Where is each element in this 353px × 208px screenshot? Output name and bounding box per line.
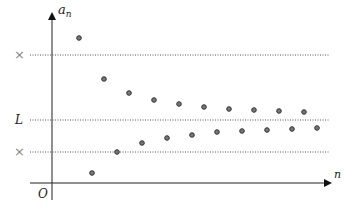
data-point [77, 36, 82, 41]
data-point [302, 110, 307, 115]
x-axis-label: n [334, 168, 341, 181]
data-point [102, 77, 107, 82]
sequence-points [77, 36, 320, 176]
y-axis-label: an [58, 2, 72, 19]
data-point [152, 98, 157, 103]
data-point [290, 127, 295, 132]
data-point [165, 136, 170, 141]
data-point [265, 128, 270, 133]
data-point [227, 107, 232, 112]
data-point [277, 109, 282, 114]
origin-label: O [38, 187, 48, 201]
data-point [115, 150, 120, 155]
data-point [202, 105, 207, 110]
data-point [252, 108, 257, 113]
limit-label: L [14, 113, 23, 127]
data-point [315, 126, 320, 131]
data-point [177, 102, 182, 107]
data-point [140, 141, 145, 146]
data-point [240, 129, 245, 134]
data-point [215, 130, 220, 135]
data-point [127, 91, 132, 96]
sequence-diagram: an n O × L × [0, 0, 353, 208]
lower-cross-mark: × [14, 144, 25, 159]
upper-cross-mark: × [14, 47, 25, 62]
data-point [90, 171, 95, 176]
data-point [190, 133, 195, 138]
